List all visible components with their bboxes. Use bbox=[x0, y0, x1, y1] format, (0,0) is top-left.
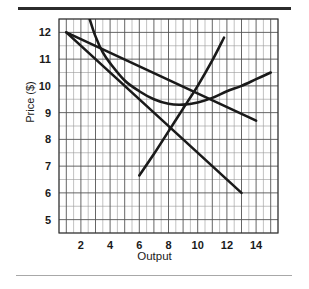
y-tick-label: 7 bbox=[45, 160, 51, 172]
plot-area: 567891011122468101214 bbox=[0, 14, 309, 270]
y-axis-label: Price ($) bbox=[24, 62, 36, 142]
y-tick-labels: 56789101112 bbox=[39, 26, 51, 225]
x-axis-label: Output bbox=[0, 250, 309, 262]
y-tick-label: 5 bbox=[45, 214, 51, 226]
y-tick-label: 6 bbox=[45, 187, 51, 199]
figure-container: 567891011122468101214 Price ($) Output bbox=[0, 0, 309, 289]
bottom-divider-rule bbox=[16, 275, 292, 276]
top-divider-rule bbox=[18, 7, 291, 10]
price-output-chart: 567891011122468101214 bbox=[0, 14, 309, 270]
y-tick-label: 11 bbox=[39, 53, 51, 65]
y-tick-label: 9 bbox=[45, 107, 51, 119]
y-tick-label: 8 bbox=[45, 133, 51, 145]
y-tick-label: 10 bbox=[39, 80, 51, 92]
y-tick-label: 12 bbox=[39, 26, 51, 38]
